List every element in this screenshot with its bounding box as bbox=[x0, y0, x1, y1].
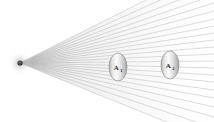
lens-a1: A 1 bbox=[109, 53, 127, 81]
light-source-core bbox=[17, 60, 22, 65]
figure-canvas: A 1 A 2 bbox=[0, 0, 214, 122]
optics-ray-diagram: A 1 A 2 bbox=[0, 0, 214, 122]
lens-a2-label: A bbox=[166, 62, 171, 70]
lens-a2: A 2 bbox=[161, 51, 179, 79]
lens-a1-label: A bbox=[114, 64, 119, 72]
